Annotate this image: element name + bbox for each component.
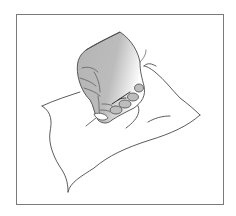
hand [77, 32, 146, 126]
hand-cloth-illustration [0, 0, 236, 216]
